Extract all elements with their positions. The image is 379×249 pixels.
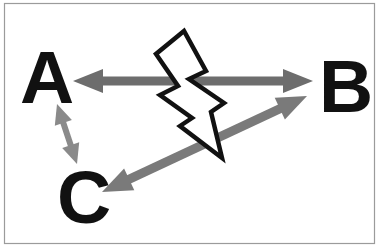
edge-a-b-arrowhead-right — [283, 69, 313, 93]
edge-c-b-arrowhead-right — [275, 96, 307, 120]
diagram-stage: A B C — [0, 0, 379, 249]
lightning-bolt-icon — [156, 31, 224, 158]
node-c-label: C — [57, 155, 111, 239]
node-b-label: B — [319, 44, 373, 128]
edge-a-b-arrowhead-left — [73, 69, 103, 93]
edge-a-c-shaft — [62, 119, 72, 149]
diagram-canvas: A B C — [0, 0, 379, 249]
node-a-label: A — [20, 35, 74, 119]
